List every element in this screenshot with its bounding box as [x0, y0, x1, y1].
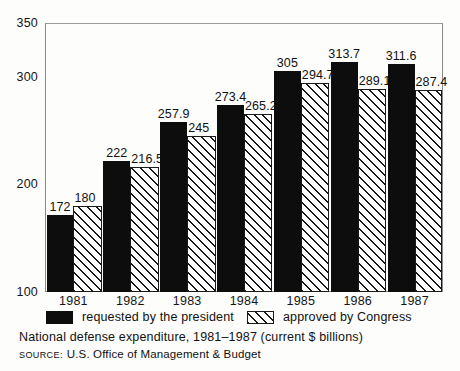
bar-requested: [160, 122, 187, 292]
legend-item-requested: requested by the president: [46, 309, 234, 325]
bar-requested: [47, 215, 74, 292]
bar-value-label-requested: 313.7: [328, 48, 360, 63]
bar-value-label-approved: 180: [73, 191, 95, 206]
bar-requested: [388, 64, 415, 292]
bar-value-label-requested: 311.6: [386, 50, 417, 65]
bar-approved: [301, 83, 329, 292]
bar-value-label-requested: 222: [106, 146, 127, 161]
source-label: SOURCE:: [19, 350, 63, 360]
x-axis: 1981198219831984198519861987: [45, 294, 443, 310]
bar-value-label-requested: 305: [277, 57, 298, 72]
bar-value-label-approved: 289.1: [358, 74, 391, 89]
bar-value-label-requested: 257.9: [158, 108, 190, 123]
x-axis-tick-label: 1985: [287, 294, 316, 308]
x-axis-tick-label: 1986: [343, 294, 372, 308]
chart-legend: requested by the president approved by C…: [46, 309, 446, 327]
chart-caption: National defense expenditure, 1981–1987 …: [19, 330, 363, 344]
bar-approved: [244, 114, 272, 292]
bar-value-label-approved: 245: [187, 121, 209, 136]
x-axis-tick-label: 1984: [230, 294, 259, 308]
chart-figure: 100200300350 172180222216.5257.9245273.4…: [0, 0, 460, 371]
x-axis-tick-label: 1982: [116, 294, 145, 308]
bar-approved: [130, 167, 158, 292]
y-axis-tick-label: 300: [17, 70, 45, 84]
y-axis-tick-label: 200: [17, 177, 45, 191]
bar-value-label-approved: 294.7: [301, 68, 334, 83]
bar-value-label-requested: 172: [49, 200, 70, 215]
bar-value-label-approved: 287.4: [415, 76, 448, 91]
y-axis-tick-label: 350: [17, 16, 45, 30]
bar-approved: [187, 136, 215, 292]
x-axis-tick-label: 1981: [59, 294, 88, 308]
x-axis-tick-label: 1983: [173, 294, 202, 308]
legend-swatch-solid-icon: [46, 311, 73, 324]
bar-approved: [415, 90, 442, 292]
legend-label-approved: approved by Congress: [283, 310, 412, 324]
x-axis-tick-label: 1987: [400, 294, 429, 308]
bar-value-label-approved: 216.5: [130, 152, 163, 167]
legend-swatch-hatched-icon: [247, 311, 274, 324]
bar-approved: [73, 206, 101, 292]
bar-requested: [331, 62, 358, 292]
bar-value-label-requested: 273.4: [215, 91, 247, 106]
bar-requested: [103, 161, 130, 292]
y-axis-tick-label: 100: [17, 285, 45, 299]
source-text: U.S. Office of Management & Budget: [67, 348, 261, 360]
bar-value-label-approved: 265.2: [244, 100, 277, 115]
legend-item-approved: approved by Congress: [247, 309, 412, 325]
plot-area: 172180222216.5257.9245273.4265.2305294.7…: [45, 23, 443, 292]
legend-label-requested: requested by the president: [82, 310, 234, 324]
bar-requested: [274, 71, 301, 292]
chart-source: SOURCE: U.S. Office of Management & Budg…: [19, 348, 261, 360]
bar-requested: [217, 105, 244, 292]
bar-approved: [358, 89, 386, 292]
